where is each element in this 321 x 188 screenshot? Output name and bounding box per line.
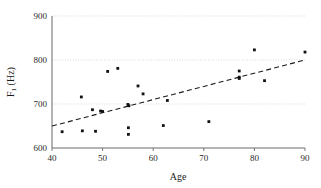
data-point — [127, 126, 130, 129]
y-tick-label-600: 600 — [34, 143, 48, 153]
data-point — [253, 48, 256, 51]
data-point — [101, 110, 104, 113]
data-point — [162, 124, 165, 127]
data-point — [137, 85, 140, 88]
axes-group — [52, 16, 305, 148]
gridlines-group — [52, 16, 305, 104]
data-point — [238, 70, 241, 73]
y-tick-label-700: 700 — [34, 99, 48, 109]
data-point — [263, 79, 266, 82]
y-axis-title: F1 (Hz) — [5, 67, 18, 97]
x-axis-title: Age — [170, 171, 187, 182]
x-tick-labels: 40 50 60 70 80 90 — [48, 153, 311, 163]
data-point — [127, 133, 130, 136]
data-point — [81, 129, 84, 132]
data-point — [106, 70, 109, 73]
data-point — [128, 104, 131, 107]
x-tick-label-70: 70 — [199, 153, 209, 163]
y-tick-label-900: 900 — [34, 11, 48, 21]
data-point — [238, 77, 241, 80]
x-tick-label-80: 80 — [250, 153, 260, 163]
x-tick-label-50: 50 — [98, 153, 108, 163]
data-point — [116, 67, 119, 70]
data-point — [80, 96, 83, 99]
data-point — [304, 51, 307, 54]
data-point — [166, 99, 169, 102]
y-axis-title-group: F1 (Hz) — [5, 67, 18, 97]
y-axis-title-unit-text: (Hz) — [5, 67, 17, 85]
data-point — [142, 92, 145, 95]
data-point — [61, 130, 64, 133]
data-point — [94, 130, 97, 133]
x-tick-label-40: 40 — [48, 153, 58, 163]
trend-line — [52, 60, 305, 126]
scatter-plot-figure: 40 50 60 70 80 90 600 700 800 900 Age F1… — [0, 0, 321, 188]
chart-canvas: 40 50 60 70 80 90 600 700 800 900 Age F1… — [0, 0, 321, 188]
y-tick-labels: 600 700 800 900 — [34, 11, 48, 153]
x-tick-label-90: 90 — [301, 153, 311, 163]
y-tick-label-800: 800 — [34, 55, 48, 65]
data-point — [91, 108, 94, 111]
data-point — [207, 120, 210, 123]
x-tick-label-60: 60 — [149, 153, 159, 163]
